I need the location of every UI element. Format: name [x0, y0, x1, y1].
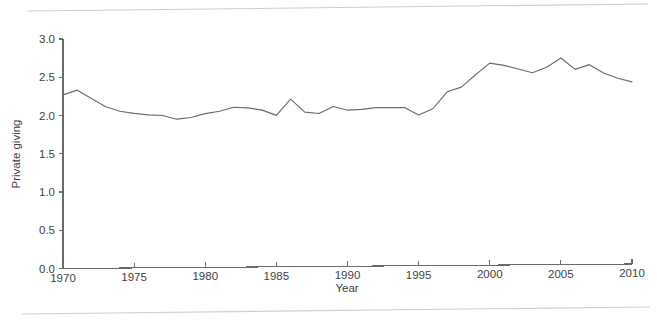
y-tick-label: 2.5 [39, 71, 55, 83]
y-tick-label: 2.0 [39, 110, 55, 122]
x-tick-label: 1970 [50, 272, 76, 284]
y-tick-label: 3.0 [39, 33, 55, 45]
x-tick-label: 1990 [335, 269, 361, 281]
x-axis-title: Year [335, 282, 358, 294]
x-tick-label: 1980 [192, 270, 218, 282]
x-tick-label: 2005 [548, 268, 574, 280]
y-tick-marks [59, 39, 63, 269]
y-tick-label: 0.5 [39, 224, 55, 236]
line-chart: 0.00.51.01.52.02.53.0 197019751980198519… [0, 0, 657, 324]
x-tick-label: 1975 [121, 271, 147, 283]
y-tick-label: 1.0 [39, 186, 55, 198]
y-axis-title: Private giving [10, 119, 22, 188]
x-tick-marks [63, 259, 632, 269]
y-axis: 0.00.51.01.52.02.53.0 [39, 33, 63, 275]
y-tick-label: 1.5 [39, 148, 55, 160]
x-tick-label: 1985 [264, 270, 290, 282]
figure-root: 0.00.51.01.52.02.53.0 197019751980198519… [0, 0, 657, 324]
y-tick-labels: 0.00.51.01.52.02.53.0 [39, 33, 55, 275]
private-giving-line [63, 58, 632, 119]
x-axis: 197019751980198519901995200020052010 [50, 259, 645, 284]
x-tick-label: 2010 [619, 267, 645, 279]
x-tick-label: 1995 [406, 269, 432, 281]
x-tick-label: 2000 [477, 268, 503, 280]
